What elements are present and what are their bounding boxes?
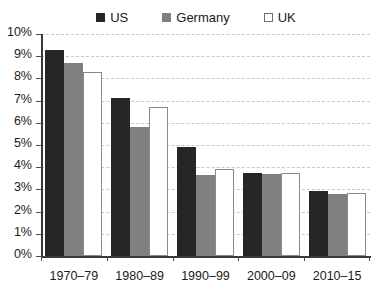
- bar-group: [238, 34, 304, 256]
- legend-label-us: US: [110, 11, 128, 24]
- bar-germany-2000–09[interactable]: [262, 174, 281, 256]
- bar-germany-1990–99[interactable]: [196, 175, 215, 256]
- y-tick-label: 9%: [14, 48, 32, 61]
- y-tick-label: 2%: [14, 204, 32, 217]
- x-tick-mark: [107, 256, 108, 261]
- bar-uk-2000–09[interactable]: [281, 173, 300, 256]
- bar-group: [304, 34, 370, 256]
- y-axis-line: [41, 34, 43, 257]
- legend-label-germany: Germany: [176, 11, 229, 24]
- x-axis: 1970–791980–891990–992000–092010–15: [41, 256, 370, 295]
- y-tick-label: 8%: [14, 70, 32, 83]
- y-tick-label: 4%: [14, 159, 32, 172]
- legend-entry-germany: Germany: [162, 11, 229, 24]
- bar-group: [173, 34, 239, 256]
- y-tick-label: 3%: [14, 181, 32, 194]
- legend-entry-uk: UK: [264, 11, 296, 24]
- bar-us-2010–15[interactable]: [309, 191, 328, 256]
- x-category: 2000–09: [238, 256, 304, 295]
- x-category-label: 2010–15: [304, 269, 370, 283]
- bar-germany-1980–89[interactable]: [130, 127, 149, 256]
- bar-us-2000–09[interactable]: [243, 173, 262, 256]
- y-tick-label: 7%: [14, 93, 32, 106]
- bar-uk-2010–15[interactable]: [347, 193, 366, 256]
- bar-us-1970–79[interactable]: [45, 50, 64, 256]
- x-category-label: 1980–89: [107, 269, 173, 283]
- x-tick-mark: [304, 256, 305, 261]
- bar-uk-1990–99[interactable]: [215, 169, 234, 256]
- bar-us-1990–99[interactable]: [177, 147, 196, 256]
- bar-group: [41, 34, 107, 256]
- legend-swatch-germany: [162, 13, 171, 22]
- x-tick-mark-end: [369, 256, 370, 261]
- x-category: 1970–79: [41, 256, 107, 295]
- x-category-label: 1990–99: [173, 269, 239, 283]
- y-tick-label: 0%: [14, 248, 32, 261]
- x-tick-mark: [41, 256, 42, 261]
- bar-uk-1980–89[interactable]: [149, 107, 168, 256]
- legend-label-uk: UK: [278, 11, 296, 24]
- y-tick-label: 6%: [14, 115, 32, 128]
- bar-us-1980–89[interactable]: [111, 98, 130, 256]
- chart-legend: US Germany UK: [0, 6, 378, 28]
- legend-entry-us: US: [96, 11, 128, 24]
- bar-germany-2010–15[interactable]: [328, 194, 347, 256]
- x-category: 1980–89: [107, 256, 173, 295]
- legend-swatch-us: [96, 13, 105, 22]
- bar-germany-1970–79[interactable]: [64, 63, 83, 256]
- bar-chart: US Germany UK 0%1%2%3%4%5%6%7%8%9%10% 19…: [0, 0, 378, 295]
- x-category-label: 2000–09: [238, 269, 304, 283]
- y-tick-label: 1%: [14, 226, 32, 239]
- legend-swatch-uk: [264, 13, 273, 22]
- x-category: 2010–15: [304, 256, 370, 295]
- y-tick-label: 5%: [14, 137, 32, 150]
- x-tick-mark: [173, 256, 174, 261]
- y-axis: 0%1%2%3%4%5%6%7%8%9%10%: [0, 34, 41, 256]
- bar-uk-1970–79[interactable]: [83, 72, 102, 256]
- x-category-label: 1970–79: [41, 269, 107, 283]
- bar-group: [107, 34, 173, 256]
- y-tick-label: 10%: [7, 26, 32, 39]
- plot-area: [41, 34, 370, 256]
- x-category: 1990–99: [173, 256, 239, 295]
- x-tick-mark: [238, 256, 239, 261]
- bars-layer: [41, 34, 370, 256]
